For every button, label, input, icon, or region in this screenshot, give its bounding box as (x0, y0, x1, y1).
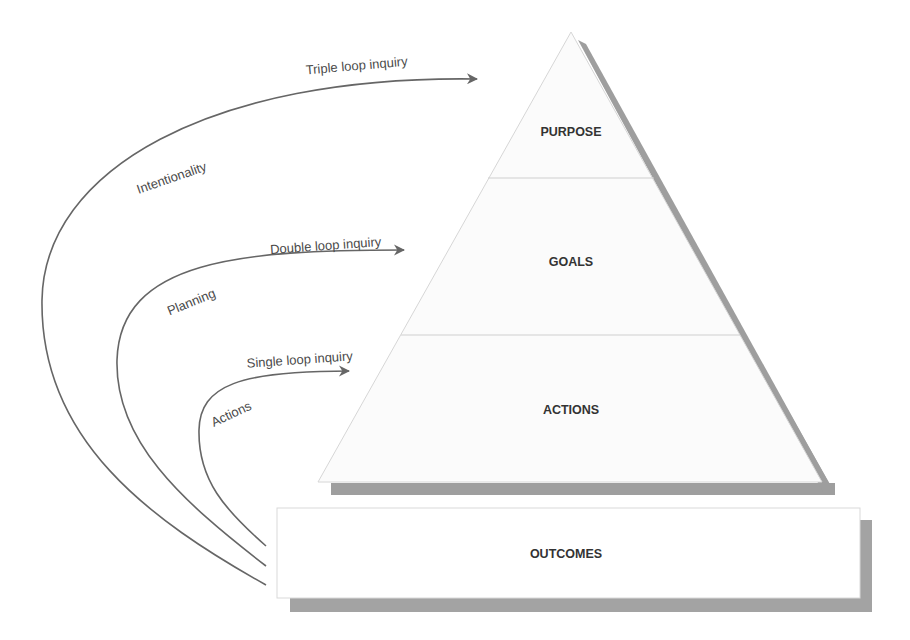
outcomes-label: OUTCOMES (530, 547, 602, 561)
learning-loops-diagram: PURPOSE GOALS ACTIONS OUTCOMES Triple lo… (0, 0, 910, 640)
intentionality-label: Intentionality (135, 159, 209, 197)
planning-label: Planning (165, 285, 218, 318)
level-purpose-label: PURPOSE (540, 125, 601, 139)
pyramid: PURPOSE GOALS ACTIONS (318, 32, 822, 482)
double-loop-label: Double loop inquiry (270, 234, 383, 257)
outcomes-base: OUTCOMES (277, 508, 872, 612)
actions-path-label: Actions (209, 398, 254, 430)
level-actions-label: ACTIONS (543, 403, 599, 417)
level-goals-label: GOALS (549, 255, 593, 269)
triple-loop-label: Triple loop inquiry (305, 54, 409, 78)
single-loop-label: Single loop inquiry (246, 348, 354, 370)
